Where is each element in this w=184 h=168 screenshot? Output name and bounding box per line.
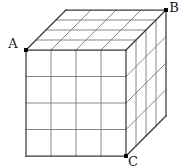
- vertex-label-a: A: [7, 36, 18, 51]
- cube-diagram-figure: ABC: [0, 0, 184, 168]
- cube-diagram-canvas: ABC: [0, 0, 184, 168]
- vertex-marker-a: [24, 48, 28, 52]
- vertex-label-c: C: [128, 154, 138, 168]
- vertex-marker-b: [164, 8, 168, 12]
- vertex-label-b: B: [169, 0, 179, 15]
